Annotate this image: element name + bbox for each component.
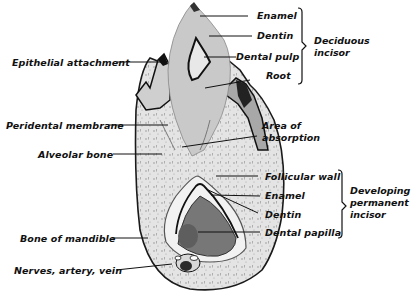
label-follicular-wall: Follicular wall: [265, 171, 340, 182]
group-line: Deciduous: [314, 35, 370, 47]
label-line: Area of: [262, 120, 320, 132]
label-area-of-absorption: Area of absorption: [262, 120, 320, 144]
anatomy-figure: Epithelial attachment Peridental membran…: [0, 0, 411, 293]
label-nerves-artery-vein: Nerves, artery, vein: [14, 265, 122, 276]
group-label-developing-permanent-incisor: Developing permanent incisor: [350, 185, 410, 221]
label-dental-pulp: Dental pulp: [236, 51, 299, 62]
label-bone-of-mandible: Bone of mandible: [20, 233, 115, 244]
group-line: permanent: [350, 197, 410, 209]
label-enamel-permanent: Enamel: [265, 190, 305, 201]
label-alveolar-bone: Alveolar bone: [38, 149, 113, 160]
bracket-deciduous: [298, 8, 306, 84]
label-dentin-permanent: Dentin: [265, 209, 301, 220]
group-line: Developing: [350, 185, 410, 197]
label-dentin-deciduous: Dentin: [257, 30, 293, 41]
group-line: incisor: [314, 47, 370, 59]
label-enamel-deciduous: Enamel: [257, 10, 297, 21]
label-epithelial-attachment: Epithelial attachment: [12, 57, 130, 68]
label-peridental-membrane: Peridental membrane: [6, 120, 124, 131]
label-dental-papilla: Dental papilla: [265, 227, 341, 238]
neurovascular-bundle: [175, 254, 200, 272]
group-label-deciduous-incisor: Deciduous incisor: [314, 35, 370, 59]
group-line: incisor: [350, 209, 410, 221]
label-root: Root: [266, 70, 291, 81]
label-line: absorption: [262, 132, 320, 144]
